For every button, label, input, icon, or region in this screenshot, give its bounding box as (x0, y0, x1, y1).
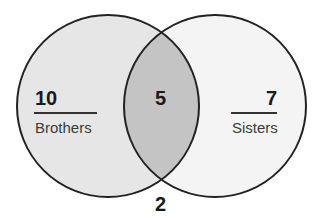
sisters-only-count: 7 (266, 88, 277, 108)
sisters-label: Sisters (232, 120, 278, 135)
brothers-label: Brothers (35, 120, 92, 135)
sisters-divider (231, 112, 277, 114)
brothers-divider (34, 112, 97, 114)
neither-count: 2 (155, 194, 166, 214)
brothers-only-count: 10 (35, 88, 57, 108)
intersection-count: 5 (155, 88, 166, 108)
